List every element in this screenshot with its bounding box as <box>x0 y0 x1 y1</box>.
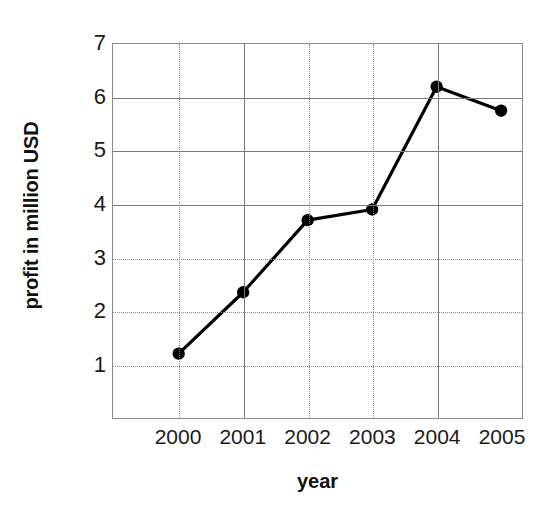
y-gridline <box>113 312 522 313</box>
y-tick-label: 7 <box>66 32 106 54</box>
x-gridline <box>373 44 374 418</box>
y-gridline <box>113 151 522 152</box>
y-axis-title: profit in million USD <box>20 121 43 309</box>
y-tick-label: 2 <box>66 300 106 322</box>
data-series-svg <box>113 44 522 418</box>
x-axis-title: year <box>112 470 523 493</box>
y-tick-label: 4 <box>66 193 106 215</box>
data-point-marker <box>495 105 507 117</box>
y-tick-label: 5 <box>66 139 106 161</box>
data-point-marker <box>430 81 442 93</box>
y-gridline <box>113 205 522 206</box>
x-tick-label: 2005 <box>462 425 542 448</box>
x-gridline <box>179 44 180 418</box>
data-line <box>179 87 501 354</box>
line-chart-figure: profit in million USD 1234567 2000200120… <box>0 0 549 530</box>
y-gridline <box>113 98 522 99</box>
y-tick-label: 6 <box>66 86 106 108</box>
x-axis-tick-labels: 200020012002200320042005 <box>0 425 549 465</box>
y-axis-title-container: profit in million USD <box>0 0 62 430</box>
y-tick-label: 3 <box>66 247 106 269</box>
x-gridline <box>244 44 245 418</box>
plot-area <box>112 43 523 419</box>
x-gridline <box>438 44 439 418</box>
y-gridline <box>113 259 522 260</box>
x-gridline <box>309 44 310 418</box>
y-gridline <box>113 366 522 367</box>
y-tick-label: 1 <box>66 354 106 376</box>
